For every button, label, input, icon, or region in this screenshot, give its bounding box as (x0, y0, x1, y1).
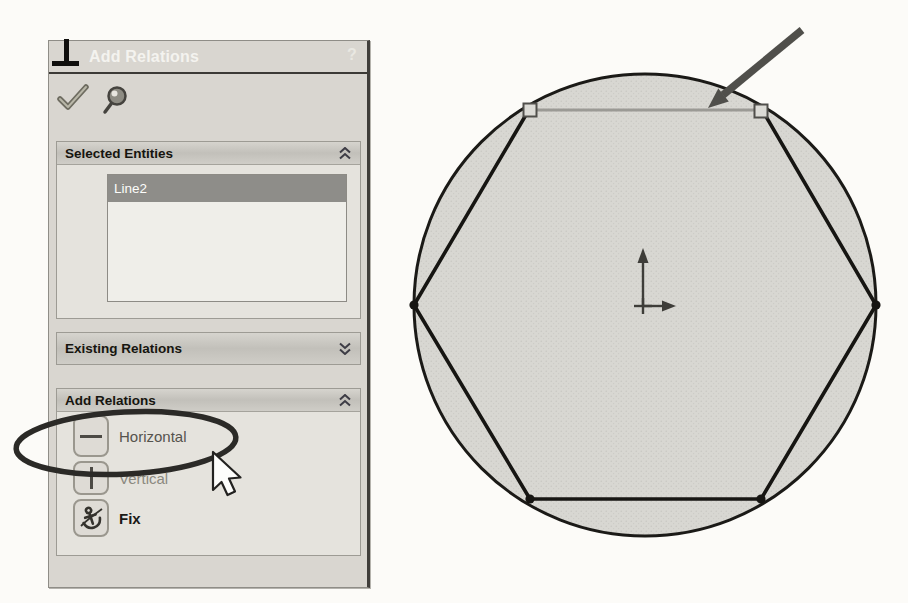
selected-entities-listbox[interactable]: Line2 (107, 174, 347, 302)
pushpin-icon[interactable] (102, 85, 132, 115)
fix-button[interactable] (73, 499, 109, 537)
perpendicular-icon (51, 37, 81, 71)
page: Add Relations ? Selected Entities (0, 0, 908, 603)
panel-toolbar (49, 74, 367, 122)
vertex-point-bottom-right[interactable] (756, 494, 765, 503)
existing-relations-header[interactable]: Existing Relations (57, 333, 360, 364)
endpoint-handle-right[interactable] (755, 105, 768, 118)
list-item-line2[interactable]: Line2 (108, 175, 346, 202)
anchor-icon (78, 505, 104, 531)
horizontal-relation-row[interactable]: Horizontal (73, 415, 187, 457)
ok-checkmark-icon[interactable] (56, 84, 90, 112)
vertex-point-right[interactable] (871, 300, 880, 309)
add-relations-label: Add Relations (65, 393, 156, 408)
selected-entities-header[interactable]: Selected Entities (57, 142, 360, 165)
fix-relation-row[interactable]: Fix (73, 499, 141, 537)
existing-relations-label: Existing Relations (65, 341, 182, 356)
horizontal-label: Horizontal (119, 428, 187, 445)
vertical-button[interactable] (73, 461, 109, 495)
horizontal-line-icon (80, 435, 102, 438)
fix-label: Fix (119, 510, 141, 527)
endpoint-handle-left[interactable] (524, 104, 537, 117)
sketch-hexagon-edges[interactable] (414, 108, 876, 499)
callout-arrow (708, 30, 802, 108)
vertex-point-left[interactable] (409, 300, 418, 309)
panel-titlebar: Add Relations ? (49, 41, 367, 74)
vertical-line-icon (90, 467, 93, 489)
sketch-origin-icon (634, 248, 676, 314)
existing-relations-group: Existing Relations (56, 332, 361, 365)
vertical-label: Vertical (119, 470, 168, 487)
selected-entities-group: Selected Entities Line2 (56, 141, 361, 319)
horizontal-button[interactable] (73, 415, 109, 457)
property-manager-panel: Add Relations ? Selected Entities (48, 40, 370, 588)
chevron-expand-icon[interactable] (338, 342, 352, 355)
selected-entities-label: Selected Entities (65, 146, 173, 161)
chevron-collapse-icon[interactable] (338, 147, 352, 160)
chevron-collapse-icon[interactable] (338, 394, 352, 407)
panel-title: Add Relations (89, 48, 199, 66)
vertex-point-bottom-left[interactable] (525, 494, 534, 503)
sketch-circle[interactable] (414, 74, 876, 536)
help-button[interactable]: ? (347, 46, 357, 64)
vertical-relation-row[interactable]: Vertical (73, 461, 168, 495)
add-relations-header[interactable]: Add Relations (57, 389, 360, 412)
